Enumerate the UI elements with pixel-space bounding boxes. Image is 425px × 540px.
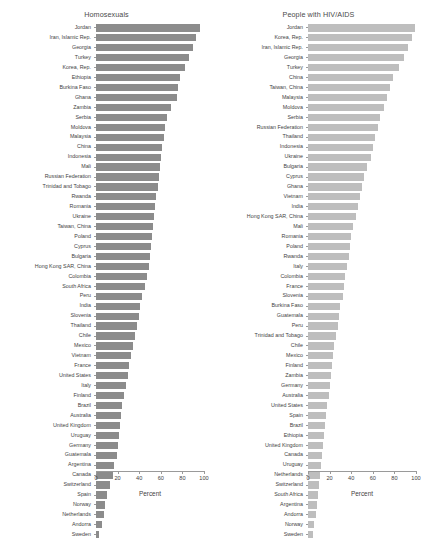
bar-category-label: Hong Kong SAR, China [212,214,306,220]
bar-category-label: Zambia [212,373,306,379]
bar-row: Mexico [212,351,425,361]
bar-track [308,460,420,470]
bar-category-label: France [212,284,306,290]
bar-category-label: Mali [212,224,306,230]
bar-track [96,262,208,272]
bar [96,163,160,170]
bar-category-label: Colombia [0,274,94,280]
bar-category-label: Korea, Rep. [0,65,94,71]
bar [96,382,126,389]
bar-row: Russian Federation [212,122,425,132]
bar-track [96,361,208,371]
bar-track [308,23,420,33]
panel-homosexuals: Homosexuals JordanIran, Islamic Rep.Geor… [0,0,213,517]
bar-category-label: Turkey [212,65,306,71]
bar-row: Mexico [0,341,213,351]
bar-category-label: Slovenia [0,313,94,319]
bar-category-label: Ukraine [212,154,306,160]
bar-category-label: Indonesia [212,144,306,150]
bar-row: Netherlands [0,510,213,520]
bar-category-label: Netherlands [212,472,306,478]
bar-track [96,142,208,152]
bar [308,322,338,329]
bar [308,521,314,528]
bar [96,293,142,300]
bar [308,273,345,280]
bar [96,84,178,91]
bar-track [308,93,420,103]
bar-row: Argentina [0,460,213,470]
bar-track [308,63,420,73]
bar-track [96,281,208,291]
bar-category-label: Poland [212,244,306,250]
bar-row: Cyprus [212,172,425,182]
bar-track [96,23,208,33]
bar-row: Switzerland [212,480,425,490]
bar [96,472,113,479]
bar-row: Australia [0,411,213,421]
bar-track [308,73,420,83]
bar-category-label: Mali [0,164,94,170]
bar [96,124,165,131]
bar-track [96,381,208,391]
bar-category-label: Ethiopia [0,75,94,81]
bar-track [308,391,420,401]
bar-row: Jordan [0,23,213,33]
bar-row: Colombia [212,271,425,281]
bar-row: Romania [212,232,425,242]
bar-category-label: China [0,144,94,150]
bar-track [308,401,420,411]
bar-category-label: Trinidad and Tobago [212,333,306,339]
bar-category-label: South Africa [0,284,94,290]
bar-track [96,212,208,222]
bar-category-label: Korea, Rep. [212,35,306,41]
bar-category-label: Chile [212,343,306,349]
bar-track [308,480,420,490]
bar-row: Thailand [0,321,213,331]
bar-track [308,142,420,152]
bar-track [96,63,208,73]
bar-row: Bulgaria [212,162,425,172]
bar-track [308,182,420,192]
bar [96,203,155,210]
x-axis-tick-label: 0 [306,475,309,481]
bar-row: Serbia [212,112,425,122]
x-axis-tick [330,471,331,474]
bar [96,412,121,419]
bar [308,362,332,369]
bar-row: Rwanda [0,192,213,202]
bar-row: Peru [0,291,213,301]
bar [96,173,159,180]
bar-track [96,520,208,530]
bar-track [96,500,208,510]
bar [308,193,360,200]
bar [96,263,149,270]
bar-row: Canada [212,450,425,460]
bar-category-label: United States [0,373,94,379]
bar [308,114,380,121]
bar [308,472,320,479]
bar [96,44,193,51]
bar [308,283,344,290]
bar-category-label: Switzerland [212,482,306,488]
bar-category-label: Moldova [212,105,306,111]
bar-rows: JordanKorea, Rep.Iran, Islamic Rep.Georg… [212,23,425,540]
bar-category-label: Taiwan, China [212,85,306,91]
bar-category-label: Germany [212,383,306,389]
bar-track [308,33,420,43]
x-axis-tick [161,471,162,474]
bar-category-label: Cyprus [212,174,306,180]
bar-row: Vietnam [212,192,425,202]
bar-row: United Kingdom [212,440,425,450]
bar [308,94,387,101]
bar-row: Taiwan, China [212,83,425,93]
bar-category-label: Trinidad and Tobago [0,184,94,190]
bar [308,352,333,359]
bar-category-label: Spain [212,413,306,419]
bar-row: Hong Kong SAR, China [0,262,213,272]
bar-row: Ethiopia [0,73,213,83]
bar-category-label: Peru [212,323,306,329]
bar [96,233,152,240]
bar-row: Burkina Faso [0,83,213,93]
bar-category-label: Ethiopia [212,433,306,439]
